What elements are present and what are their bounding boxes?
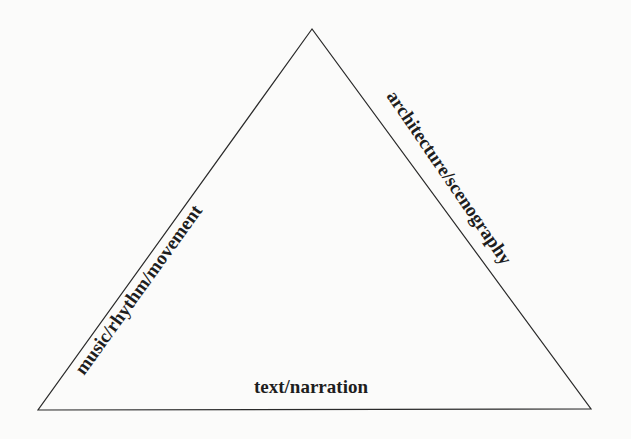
label-left-side: music/rhythm/movement	[70, 200, 206, 378]
label-right-side: architecture/scenography	[383, 86, 517, 268]
label-base: text/narration	[254, 376, 368, 397]
triangle-shape	[38, 29, 591, 410]
triangle-diagram: music/rhythm/movement architecture/sceno…	[0, 0, 631, 439]
